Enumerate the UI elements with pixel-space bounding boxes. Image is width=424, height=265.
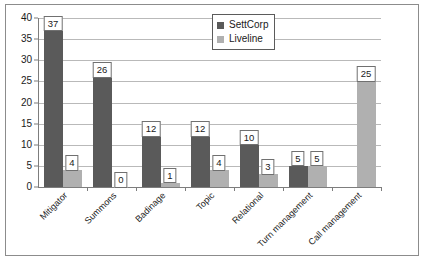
bar-group-mitigator: 37 4 <box>38 18 87 187</box>
bar-settcorp[interactable]: 10 <box>240 145 259 187</box>
x-category-label: Mitigator <box>38 191 69 222</box>
bar-value-label: 10 <box>240 130 259 146</box>
y-tick-label: 5 <box>26 161 32 171</box>
x-tick-mark <box>381 187 382 191</box>
x-label-cell: Call management <box>332 189 381 255</box>
bar-liveline[interactable]: 25 <box>357 81 376 187</box>
y-tick-label: 35 <box>21 34 32 44</box>
y-tick-label: 20 <box>21 98 32 108</box>
x-category-label: Summons <box>83 191 118 226</box>
bar-settcorp[interactable]: 37 <box>44 31 63 187</box>
legend-item-liveline[interactable]: Liveline <box>217 32 268 46</box>
bar-value-label: 5 <box>310 151 323 167</box>
x-axis-category-labels: Mitigator Summons Badinage Topic Relatio… <box>38 189 381 255</box>
bar-settcorp[interactable]: 12 <box>191 136 210 187</box>
bar-value-label: 5 <box>291 151 304 167</box>
y-tick-label: 0 <box>26 182 32 192</box>
bar-value-label: 4 <box>65 155 78 171</box>
bar-groups: 37 4 26 0 12 <box>38 18 381 187</box>
x-category-label: Badinage <box>134 191 167 224</box>
bar-group-badinage: 12 1 <box>136 18 185 187</box>
bar-value-label: 37 <box>44 16 63 32</box>
bar-value-label: 12 <box>191 121 210 137</box>
bar-liveline[interactable]: 3 <box>259 174 278 187</box>
legend-label: Liveline <box>229 34 263 44</box>
x-label-cell: Badinage <box>136 189 185 255</box>
bar-liveline[interactable]: 4 <box>63 170 82 187</box>
bar-liveline[interactable]: 5 <box>308 166 327 187</box>
bar-value-label: 1 <box>163 168 176 184</box>
x-category-label: Topic <box>195 191 216 212</box>
bar-value-label: 0 <box>114 172 127 188</box>
bar-value-label: 25 <box>357 66 376 82</box>
bar-group-summons: 26 0 <box>87 18 136 187</box>
bar-settcorp[interactable]: 26 <box>93 77 112 187</box>
legend-label: SettCorp <box>229 20 268 30</box>
bar-liveline[interactable]: 4 <box>210 170 229 187</box>
bar-liveline[interactable]: 1 <box>161 183 180 187</box>
x-label-cell: Mitigator <box>38 189 87 255</box>
x-category-label: Relational <box>230 191 265 226</box>
y-tick-label: 30 <box>21 55 32 65</box>
y-tick-label: 25 <box>21 76 32 86</box>
legend-swatch-icon <box>217 36 224 43</box>
bar-group-turn-management: 5 5 <box>283 18 332 187</box>
bar-value-label: 3 <box>261 159 274 175</box>
y-tick-label: 15 <box>21 119 32 129</box>
bar-chart-figure: 40 35 30 25 20 15 10 5 0 37 <box>0 0 424 265</box>
bar-value-label: 26 <box>93 62 112 78</box>
legend-swatch-icon <box>217 22 224 29</box>
bar-settcorp[interactable]: 5 <box>289 166 308 187</box>
x-label-cell: Topic <box>185 189 234 255</box>
bar-value-label: 12 <box>142 121 161 137</box>
bar-settcorp[interactable]: 12 <box>142 136 161 187</box>
y-tick-label: 10 <box>21 140 32 150</box>
x-label-cell: Summons <box>87 189 136 255</box>
chart-legend: SettCorp Liveline <box>212 14 275 50</box>
y-axis-ticks: 40 35 30 25 20 15 10 5 0 <box>0 18 38 187</box>
bar-group-call-management: 25 <box>332 18 381 187</box>
legend-item-settcorp[interactable]: SettCorp <box>217 18 268 32</box>
y-tick-label: 40 <box>21 13 32 23</box>
bar-value-label: 4 <box>212 155 225 171</box>
